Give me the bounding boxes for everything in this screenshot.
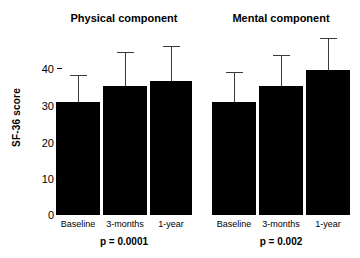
bar-physical-1year[interactable] bbox=[150, 81, 192, 215]
panel-mental-component: Mental component Baseline 3-month bbox=[212, 0, 350, 258]
plot-area-mental bbox=[212, 31, 350, 215]
y-tick-label-30: 30 bbox=[16, 101, 54, 111]
x-tick-label-physical-baseline: Baseline bbox=[51, 219, 105, 229]
y-tick-label-0: 0 bbox=[16, 210, 54, 220]
panel-physical-component: Physical component Baseline 3-mon bbox=[56, 0, 192, 258]
bar-group-physical-baseline[interactable] bbox=[56, 31, 100, 215]
x-tick-label-mental-3months: 3-months bbox=[254, 219, 308, 229]
x-tick-label-mental-1year: 1-year bbox=[306, 219, 350, 229]
bar-mental-1year[interactable] bbox=[306, 70, 350, 215]
x-tick-label-mental-baseline: Baseline bbox=[207, 219, 261, 229]
panel-title-physical: Physical component bbox=[56, 12, 192, 24]
x-tick-label-physical-3months: 3-months bbox=[98, 219, 152, 229]
bar-group-mental-3months[interactable] bbox=[259, 31, 303, 215]
bar-group-mental-1year[interactable] bbox=[306, 31, 350, 215]
bar-group-physical-1year[interactable] bbox=[150, 31, 192, 215]
error-bar-cap-mental-1year bbox=[320, 38, 337, 39]
error-bar-line-mental-3months bbox=[281, 56, 282, 86]
error-bar-line-physical-1year bbox=[171, 47, 172, 81]
sf36-bar-chart-figure: SF-36 score 40 30 20 10 0 Physical compo… bbox=[0, 0, 360, 258]
p-value-mental: p = 0.002 bbox=[212, 236, 350, 247]
error-bar-cap-mental-3months bbox=[273, 55, 290, 56]
bar-group-physical-3months[interactable] bbox=[103, 31, 147, 215]
error-bar-cap-physical-1year bbox=[163, 46, 180, 47]
x-tick-label-physical-1year: 1-year bbox=[149, 219, 193, 229]
panel-title-mental: Mental component bbox=[212, 12, 350, 24]
p-value-physical: p = 0.0001 bbox=[56, 236, 192, 247]
y-axis-title: SF-36 score bbox=[11, 66, 22, 170]
bar-group-mental-baseline[interactable] bbox=[212, 31, 256, 215]
error-bar-line-physical-baseline bbox=[78, 76, 79, 102]
bar-physical-3months[interactable] bbox=[103, 86, 147, 215]
y-tick-label-40: 40 bbox=[16, 64, 54, 74]
error-bar-line-physical-3months bbox=[125, 53, 126, 86]
bar-mental-3months[interactable] bbox=[259, 86, 303, 215]
error-bar-cap-mental-baseline bbox=[226, 72, 243, 73]
bar-physical-baseline[interactable] bbox=[56, 102, 100, 215]
plot-area-physical bbox=[56, 31, 192, 215]
error-bar-cap-physical-3months bbox=[117, 52, 134, 53]
y-tick-label-10: 10 bbox=[16, 174, 54, 184]
error-bar-line-mental-baseline bbox=[234, 73, 235, 102]
error-bar-line-mental-1year bbox=[328, 39, 329, 70]
bar-mental-baseline[interactable] bbox=[212, 102, 256, 215]
y-tick-label-20: 20 bbox=[16, 138, 54, 148]
error-bar-cap-physical-baseline bbox=[70, 75, 87, 76]
